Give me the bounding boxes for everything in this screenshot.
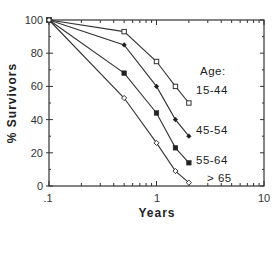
data-point-marker [122,71,127,76]
y-tick-100: 100 [25,14,43,26]
y-tick-40: 40 [31,114,43,126]
survival-chart: 0 20 40 60 80 100 .1 1 10 Years % Surviv… [0,0,278,255]
data-point-marker [154,111,159,116]
y-axis-tick-labels: 0 20 40 60 80 100 [25,14,43,192]
x-tick-1: 1 [154,192,160,204]
legend-label-55-64: 55-64 [196,154,228,166]
data-point-marker [173,146,178,151]
data-point-marker [173,84,177,88]
x-tick-10: 10 [258,192,270,204]
legend-label-15-44: 15-44 [196,84,228,96]
x-axis-title: Years [138,206,175,220]
y-tick-0: 0 [37,180,43,192]
data-series [46,17,191,185]
plot-frame [49,20,264,186]
legend: Age: 15-44 45-54 55-64 > 65 [196,65,232,184]
y-tick-60: 60 [31,80,43,92]
axis-ticks [46,20,264,186]
legend-title: Age: [200,65,226,77]
series--65 [46,17,191,185]
data-point-marker [122,29,126,33]
data-point-marker [187,101,191,105]
data-point-marker [187,160,192,165]
y-tick-80: 80 [31,47,43,59]
legend-label-45-54: 45-54 [196,124,228,136]
y-tick-20: 20 [31,147,43,159]
x-tick-0.1: .1 [43,192,52,204]
y-axis-title: % Survivors [5,63,19,143]
legend-label-over-65: > 65 [207,172,232,184]
data-point-marker [154,59,158,63]
x-axis-tick-labels: .1 1 10 [43,192,270,204]
